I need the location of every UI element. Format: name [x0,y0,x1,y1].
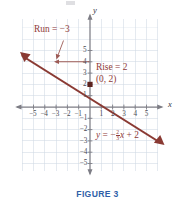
figure-3-graph: −5 −4 −3 −2 −1 1 2 3 4 5 5 4 3 2 1 −1 −2… [0,0,195,208]
y-axis-label: y [93,6,97,15]
equation-label: y = −23x + 2 [96,130,139,142]
x-tick-label-3: 3 [122,111,126,118]
point-coordinate-label: (0, 2) [96,75,116,84]
line-graph [19,54,165,146]
x-tick-label--3: −3 [52,111,60,118]
x-tick-label--5: −5 [29,111,37,118]
y-tick-label--4: −4 [80,149,88,156]
y-axis-arrow-up [88,14,93,20]
x-tick-label--4: −4 [40,111,48,118]
x-tick-label-1: 1 [100,111,104,118]
y-tick-label--3: −3 [80,138,88,145]
figure-caption: FIGURE 3 [0,189,195,199]
x-axis-arrow-left [15,104,21,109]
axis-arrowheads [15,14,163,176]
run-annotation-label: Run = −3 [34,25,70,34]
x-axis-label: x [168,100,172,109]
y-axis-arrow-down [88,169,93,175]
x-axis-arrow-right [157,104,163,109]
equation-constant: 2 [134,130,139,140]
y-tick-label-3: 3 [83,70,87,77]
equation-minus-sign: − [110,130,115,140]
point-marker-0-2 [87,82,92,87]
run-arrowhead [54,60,59,64]
equation-fraction: 23 [116,130,120,142]
run-leader-arrow [56,41,64,60]
y-tick-label--5: −5 [80,160,88,167]
y-tick-label-5: 5 [83,47,87,54]
x-tick-label-4: 4 [134,111,138,118]
y-tick-label--2: −2 [80,126,88,133]
axes [18,16,162,173]
y-tick-label-4: 4 [83,59,87,66]
rise-annotation-label: Rise = 2 [96,63,127,72]
coordinate-plane-svg [0,0,195,208]
y-tick-label-1: 1 [83,92,87,99]
x-tick-label-2: 2 [111,111,115,118]
fraction-denominator: 3 [116,135,120,142]
y-tick-label-2: 2 [83,81,87,88]
x-tick-label-5: 5 [145,111,149,118]
y-tick-label--1: −1 [80,115,88,122]
x-tick-label--2: −2 [63,111,71,118]
